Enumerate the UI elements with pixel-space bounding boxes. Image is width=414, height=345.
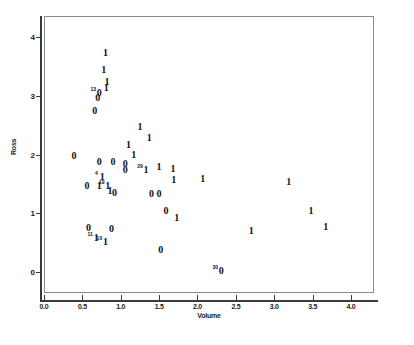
data-point-marker: 1 xyxy=(131,150,136,160)
data-point-marker: 1 xyxy=(174,213,179,223)
x-tick-label: 1.5 xyxy=(155,303,164,310)
x-tick xyxy=(159,295,160,300)
x-tick-label: 4.0 xyxy=(347,303,356,310)
data-point-marker: 1 xyxy=(309,206,314,216)
x-tick-label: 1.0 xyxy=(116,303,125,310)
data-point-marker: 0 xyxy=(149,189,154,199)
x-tick xyxy=(197,295,198,300)
data-point-marker: 0 xyxy=(84,181,89,191)
plot-area-frame xyxy=(44,16,374,293)
x-tick-label: 2.5 xyxy=(231,303,240,310)
x-tick xyxy=(313,295,314,300)
x-axis-line xyxy=(40,300,378,302)
data-point-marker: 0 xyxy=(97,157,102,167)
case-number-label: 30 xyxy=(212,265,218,270)
data-point-marker: 0 xyxy=(95,93,100,103)
data-point-marker: 0 xyxy=(112,188,117,198)
case-number-label: 19 xyxy=(99,180,105,185)
data-point-marker: 1 xyxy=(323,222,328,232)
data-point-marker: 0 xyxy=(164,206,169,216)
y-tick-label: 0 xyxy=(26,268,35,277)
y-axis-line xyxy=(40,16,42,302)
x-tick xyxy=(351,295,352,300)
data-point-marker: 0 xyxy=(111,157,116,167)
case-number-label: 11 xyxy=(88,231,93,236)
x-tick xyxy=(274,295,275,300)
case-number-label: 10 xyxy=(97,236,103,241)
case-number-label: 29 xyxy=(137,164,143,169)
x-tick xyxy=(121,295,122,300)
data-point-marker: 0 xyxy=(109,224,114,234)
data-point-marker: 1 xyxy=(249,226,254,236)
y-tick xyxy=(36,213,41,214)
y-tick-label: 3 xyxy=(26,91,35,100)
x-tick-label: 0.0 xyxy=(40,303,49,310)
data-point-marker: 1 xyxy=(200,174,205,184)
x-tick-label: 0.5 xyxy=(78,303,87,310)
y-tick xyxy=(36,37,41,38)
y-tick-label: 1 xyxy=(26,209,35,218)
x-tick-label: 3.5 xyxy=(308,303,317,310)
data-point-marker: 1 xyxy=(103,237,108,247)
case-number-label: 13 xyxy=(90,86,96,91)
x-tick xyxy=(82,295,83,300)
y-axis-title: Ross xyxy=(10,139,17,155)
y-tick-label: 2 xyxy=(26,150,35,159)
x-axis-title: Volume xyxy=(197,312,221,319)
x-tick xyxy=(44,295,45,300)
data-point-marker: 1 xyxy=(104,83,109,93)
data-point-marker: 1 xyxy=(144,165,149,175)
data-point-marker: 0 xyxy=(123,165,128,175)
data-point-marker: 0 xyxy=(71,151,76,161)
data-point-marker: 0 xyxy=(158,245,163,255)
x-tick-label: 2.0 xyxy=(193,303,202,310)
y-tick-label: 4 xyxy=(26,32,35,41)
data-point-marker: 1 xyxy=(103,48,108,58)
data-point-marker: 0 xyxy=(92,106,97,116)
case-number-label: 4 xyxy=(95,170,98,175)
data-point-marker: 1 xyxy=(101,65,106,75)
data-point-marker: 1 xyxy=(147,133,152,143)
data-point-marker: 1 xyxy=(126,140,131,150)
data-point-marker: 1 xyxy=(171,175,176,185)
x-tick-label: 3.0 xyxy=(270,303,279,310)
data-point-marker: 1 xyxy=(286,177,291,187)
y-tick xyxy=(36,96,41,97)
data-point-marker: 0 xyxy=(219,266,224,276)
x-tick xyxy=(236,295,237,300)
y-tick xyxy=(36,272,41,273)
scatter-plot-figure: 0.00.51.01.52.02.53.03.54.0 01234 Volume… xyxy=(0,0,414,345)
data-point-marker: 1 xyxy=(157,162,162,172)
y-tick xyxy=(36,155,41,156)
data-point-marker: 0 xyxy=(157,189,162,199)
data-point-marker: 1 xyxy=(137,122,142,132)
data-point-marker: 1 xyxy=(170,164,175,174)
